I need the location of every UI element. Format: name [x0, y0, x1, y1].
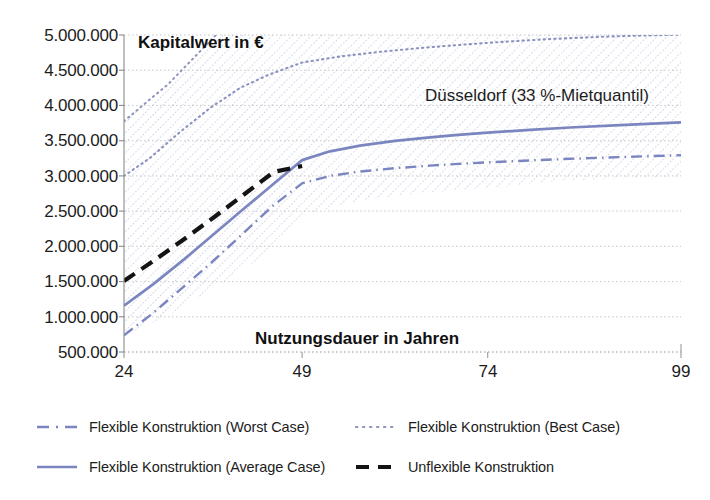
legend-label: Flexible Konstruktion (Average Case) [89, 459, 325, 475]
dotted-line-icon [355, 420, 397, 434]
chart-annotation: Düsseldorf (33 %-Mietquantil) [425, 86, 649, 106]
legend-item-unflexible[interactable]: Unflexible Konstruktion [355, 456, 554, 478]
legend-item-average-case[interactable]: Flexible Konstruktion (Average Case) [36, 456, 325, 478]
chart-legend: Flexible Konstruktion (Worst Case) Flexi… [0, 404, 710, 500]
solid-line-icon [36, 460, 78, 474]
y-tick-label: 500.000 [20, 343, 118, 363]
y-tick-label: 5.000.000 [20, 26, 118, 46]
y-tick-label: 4.500.000 [20, 61, 118, 81]
y-tick-label: 1.500.000 [20, 272, 118, 292]
y-axis-title: Kapitalwert in € [138, 33, 264, 53]
legend-item-worst-case[interactable]: Flexible Konstruktion (Worst Case) [36, 416, 309, 438]
y-tick-label: 2.500.000 [20, 202, 118, 222]
y-tickmarks [119, 35, 124, 352]
legend-label: Unflexible Konstruktion [408, 459, 554, 475]
y-tick-label: 1.000.000 [20, 308, 118, 328]
y-tick-label: 4.000.000 [20, 96, 118, 116]
dashed-line-icon [355, 460, 397, 474]
dash-dot-line-icon [36, 420, 78, 434]
legend-label: Flexible Konstruktion (Best Case) [408, 419, 620, 435]
x-tickmarks [124, 352, 681, 358]
x-tick-label: 74 [458, 362, 518, 382]
legend-label: Flexible Konstruktion (Worst Case) [89, 419, 309, 435]
y-tick-label: 2.000.000 [20, 237, 118, 257]
x-axis-title: Nutzungsdauer in Jahren [255, 329, 459, 349]
y-axis-tick-labels: 5.000.000 4.500.000 4.000.000 3.500.000 … [18, 0, 118, 400]
x-tick-label: 24 [94, 362, 154, 382]
x-tick-label: 99 [651, 362, 710, 382]
y-tick-label: 3.000.000 [20, 167, 118, 187]
legend-item-best-case[interactable]: Flexible Konstruktion (Best Case) [355, 416, 620, 438]
y-tick-label: 3.500.000 [20, 131, 118, 151]
x-tick-label: 49 [272, 362, 332, 382]
chart-figure: 5.000.000 4.500.000 4.000.000 3.500.000 … [0, 0, 710, 500]
